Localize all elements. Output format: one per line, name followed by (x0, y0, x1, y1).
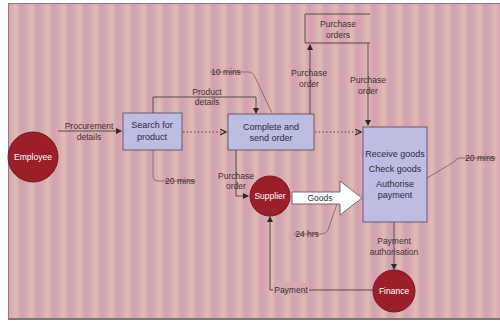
finance-label: Finance (379, 286, 410, 296)
delivery-time-tag: 24 hrs (295, 229, 319, 239)
po-to-store-label-line2: order (299, 79, 319, 89)
complete-label-line1: Complete and (243, 122, 299, 132)
po-from-store-label-line2: order (358, 86, 378, 96)
procurement-label-line2: details (77, 132, 102, 142)
receive-label-line3: Authorise (376, 179, 414, 189)
complete-and-send-order-process (228, 114, 314, 150)
payment-authorisation-label-line1: Payment (377, 236, 411, 246)
supplier-label: Supplier (254, 191, 285, 201)
receive-label-line2: Check goods (369, 164, 422, 174)
procurement-label-line1: Procurement (65, 121, 114, 131)
product-details-label-line1: Product (192, 87, 222, 97)
receive-label-line4: payment (378, 190, 413, 200)
po-to-supplier-label-line1: Purchase (218, 171, 254, 181)
payment-authorisation-label-line2: authorisation (370, 247, 419, 257)
po-from-store-label-line1: Purchase (350, 75, 386, 85)
complete-time-tag: 10 mins (211, 67, 241, 77)
store-label-line2: orders (326, 30, 350, 40)
employee-label: Employee (14, 152, 52, 162)
payment-label: Payment (274, 285, 308, 295)
store-label-line1: Purchase (320, 19, 356, 29)
goods-label: Goods (307, 193, 332, 203)
po-to-supplier-label-line2: order (226, 181, 246, 191)
po-to-store-label-line1: Purchase (291, 68, 327, 78)
receive-time-tag: 20 mins (465, 153, 495, 163)
receive-label-line1: Receive goods (365, 149, 425, 159)
complete-label-line2: send order (249, 133, 292, 143)
search-time-tag: 20 mins (165, 176, 195, 186)
payment-flow-arrow (270, 217, 374, 290)
search-label-line2: product (137, 132, 168, 142)
search-label-line1: Search for (131, 120, 173, 130)
product-details-label-line2: details (195, 97, 220, 107)
receive-goods-process (363, 127, 427, 222)
process-flow-diagram: Employee Supplier Finance Search for pro… (0, 0, 500, 328)
